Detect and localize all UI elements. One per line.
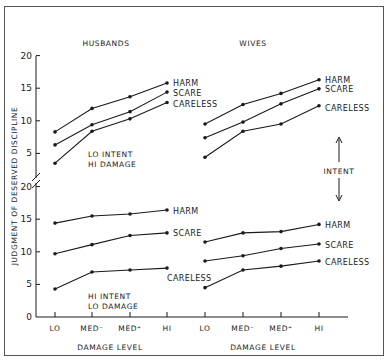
data-point xyxy=(203,286,207,290)
series-scare xyxy=(53,90,169,146)
series-harm xyxy=(53,81,169,134)
data-point xyxy=(53,252,57,256)
chart-canvas: 201510520151050LOMED⁻MED⁺HILOMED⁻MED⁺HIH… xyxy=(0,0,390,363)
series-label: HARM xyxy=(173,207,199,216)
y-tick-label: 15 xyxy=(21,214,32,224)
series-label: SCARE xyxy=(325,85,354,94)
series-harm xyxy=(203,223,321,244)
series-label: HARM xyxy=(173,79,199,88)
series-careless xyxy=(53,266,169,290)
data-point xyxy=(241,268,245,272)
data-point xyxy=(90,123,94,127)
y-tick-label: 0 xyxy=(26,312,32,322)
data-point xyxy=(128,95,132,99)
series-harm xyxy=(53,208,169,225)
x-axis-label: DAMAGE LEVEL xyxy=(230,343,296,352)
data-point xyxy=(90,129,94,133)
y-tick-label: 20 xyxy=(21,182,33,192)
data-point xyxy=(317,87,321,91)
data-point xyxy=(279,230,283,234)
data-point xyxy=(128,110,132,114)
data-point xyxy=(241,120,245,124)
series-label: SCARE xyxy=(173,89,202,98)
x-tick-label: LO xyxy=(199,324,210,333)
y-tick-label: 15 xyxy=(21,83,32,93)
y-tick-label: 10 xyxy=(21,116,33,126)
series-label: CARELESS xyxy=(325,258,370,267)
series-line xyxy=(55,268,167,289)
data-point xyxy=(203,136,207,140)
series-careless xyxy=(203,259,321,289)
y-tick-label: 20 xyxy=(21,51,33,61)
data-point xyxy=(165,208,169,212)
x-axis-label: DAMAGE LEVEL xyxy=(77,343,143,352)
series-line xyxy=(205,224,319,242)
data-point xyxy=(90,107,94,111)
data-point xyxy=(317,259,321,263)
data-point xyxy=(317,223,321,227)
data-point xyxy=(279,92,283,96)
data-point xyxy=(128,212,132,216)
panel-title-wives: WIVES xyxy=(239,39,266,48)
data-point xyxy=(53,143,57,147)
y-tick-label: 5 xyxy=(26,279,32,289)
data-point xyxy=(53,130,57,134)
data-point xyxy=(241,103,245,107)
data-point xyxy=(53,161,57,165)
data-point xyxy=(203,240,207,244)
annotation-lo-damage: LO DAMAGE xyxy=(88,302,138,311)
series-line xyxy=(205,80,319,124)
series-label: CARELESS xyxy=(167,274,212,283)
data-point xyxy=(165,101,169,105)
data-point xyxy=(128,117,132,121)
series-line xyxy=(55,92,167,145)
series-scare xyxy=(203,242,321,263)
data-point xyxy=(90,214,94,218)
data-point xyxy=(317,104,321,108)
series-line xyxy=(55,210,167,223)
series-label: SCARE xyxy=(173,229,202,238)
data-point xyxy=(165,90,169,94)
series-line xyxy=(205,261,319,288)
data-point xyxy=(90,270,94,274)
series-label: CARELESS xyxy=(173,100,218,109)
data-point xyxy=(90,243,94,247)
y-axis-label: JUDGMENT OF DESERVED DISCIPLINE xyxy=(10,107,19,267)
data-point xyxy=(241,254,245,258)
axis-labels: 201510520151050LOMED⁻MED⁺HILOMED⁻MED⁺HIH… xyxy=(10,39,370,352)
x-tick-label: MED⁻ xyxy=(231,324,254,333)
data-point xyxy=(241,129,245,133)
x-tick-label: MED⁺ xyxy=(118,324,141,333)
data-point xyxy=(317,78,321,82)
annotation-hi-damage: HI DAMAGE xyxy=(88,160,136,169)
data-point xyxy=(53,287,57,291)
series-label: HARM xyxy=(325,76,351,85)
data-point xyxy=(203,122,207,126)
data-point xyxy=(53,221,57,225)
data-point xyxy=(165,266,169,270)
data-point xyxy=(279,264,283,268)
data-point xyxy=(279,122,283,126)
data-point xyxy=(317,242,321,246)
data-point xyxy=(203,156,207,160)
x-tick-label: HI xyxy=(162,324,171,333)
series-label: SCARE xyxy=(325,241,354,250)
data-point xyxy=(241,231,245,235)
x-tick-label: MED⁺ xyxy=(269,324,292,333)
y-tick-label: 10 xyxy=(21,247,33,257)
series-harm xyxy=(203,78,321,126)
series-label: CARELESS xyxy=(325,104,370,113)
series-label: HARM xyxy=(325,221,351,230)
data-point xyxy=(203,259,207,263)
panel-title-husbands: HUSBANDS xyxy=(82,39,129,48)
series-scare xyxy=(53,231,169,255)
annotation-lo-intent: LO INTENT xyxy=(88,150,133,159)
series-line xyxy=(205,89,319,138)
intent-label: INTENT xyxy=(324,167,355,176)
data-series xyxy=(53,78,321,291)
data-point xyxy=(165,81,169,85)
data-point xyxy=(279,102,283,106)
data-point xyxy=(165,231,169,235)
annotation-hi-intent: HI INTENT xyxy=(88,292,131,301)
series-line xyxy=(205,244,319,261)
